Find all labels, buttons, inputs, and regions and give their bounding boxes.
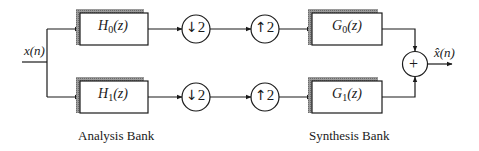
upsampler-0-label: ↑2 <box>255 19 274 36</box>
middle-connectors <box>210 29 251 97</box>
synthesis-bank-title: Synthesis Bank <box>309 128 390 144</box>
upsampler-1-label: ↑2 <box>255 87 274 104</box>
analysis-connectors <box>148 29 182 97</box>
filter-g1-label: G1(z) <box>332 86 362 103</box>
filter-g0-label: G0(z) <box>332 18 362 35</box>
up-arrow-icon: ↑ <box>255 19 267 35</box>
down-arrow-icon: ↓ <box>186 87 198 103</box>
downsampler-0-label: ↓2 <box>186 19 205 36</box>
up-arrow-icon: ↑ <box>255 87 267 103</box>
output-label: x̂(n) <box>434 45 455 61</box>
analysis-bank-title: Analysis Bank <box>78 128 154 144</box>
filter-bank-diagram <box>0 0 479 151</box>
down-arrow-icon: ↓ <box>186 19 198 35</box>
downsampler-1-label: ↓2 <box>186 87 205 104</box>
input-label: x(n) <box>24 43 45 59</box>
plus-icon: + <box>409 55 418 73</box>
filter-h0-label: H0(z) <box>98 18 128 35</box>
synthesis-connectors <box>279 29 312 97</box>
input-branch <box>22 29 80 97</box>
filter-h1-label: H1(z) <box>98 86 128 103</box>
